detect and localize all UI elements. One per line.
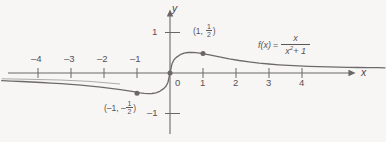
max-label-comma: ,: [201, 26, 206, 36]
x-tick-label-minus-4: –4: [31, 54, 42, 64]
point-minimum-dot: [135, 91, 140, 96]
point-origin-dot: [168, 71, 173, 76]
function-numerator: x: [281, 34, 310, 44]
function-name: f(x): [258, 40, 271, 50]
y-tick-label-minus-1: –1: [147, 108, 158, 118]
point-maximum-dot: [201, 51, 206, 56]
x-tick-label-1: 1: [200, 78, 205, 88]
x-tick-label-3: 3: [266, 78, 271, 88]
x-tick-label-4: 4: [299, 78, 304, 88]
min-label-fraction: 12: [126, 100, 132, 116]
x-axis-label: x: [361, 67, 366, 78]
x-tick-label-minus-2: –2: [97, 54, 108, 64]
x-tick-label-minus-1: –1: [130, 54, 141, 64]
min-label-sign: –: [121, 103, 126, 113]
min-label-x: –1: [107, 103, 116, 113]
graph-canvas: [0, 0, 386, 142]
function-equals: =: [273, 40, 278, 50]
min-label-close-paren: ): [133, 103, 136, 113]
denominator-rest: + 1: [293, 46, 306, 56]
x-tick-label-0: 0: [175, 78, 180, 88]
max-label-close-paren: ): [213, 26, 216, 36]
function-denominator: x2+ 1: [281, 44, 310, 57]
x-tick-label-2: 2: [233, 78, 238, 88]
point-label-maximum: (1, 12): [193, 23, 216, 39]
y-tick-label-1: 1: [152, 27, 157, 37]
function-graph-figure: y x 1 –1 –4 –3 –2 –1 0 1 2 3 4 (1, 12) (…: [0, 0, 386, 142]
y-axis-label: y: [172, 3, 177, 14]
point-label-minimum: (–1, –12): [104, 100, 136, 116]
function-formula-label: f(x) = x x2+ 1: [258, 34, 310, 57]
x-tick-label-minus-3: –3: [64, 54, 75, 64]
max-label-fraction: 12: [206, 23, 212, 39]
function-fraction: x x2+ 1: [281, 34, 310, 57]
